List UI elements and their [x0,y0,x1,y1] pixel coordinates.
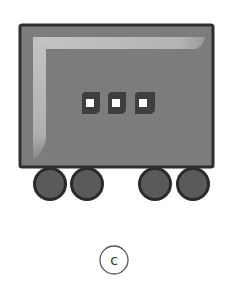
figure-label: c [100,246,128,274]
cart-diagram: c [0,0,230,289]
wheel-icon [178,169,209,200]
highlight-left [33,37,46,158]
figure-label-text: c [110,252,118,268]
highlight-top [33,37,205,49]
wheel-icon [140,169,171,200]
wheel-icon [35,169,66,200]
indicator-lights [82,92,155,114]
wheel-icon [72,169,103,200]
wheels [35,169,209,200]
indicator-light-icon [82,92,100,114]
indicator-light-icon [108,92,126,114]
indicator-light-icon [135,92,155,114]
